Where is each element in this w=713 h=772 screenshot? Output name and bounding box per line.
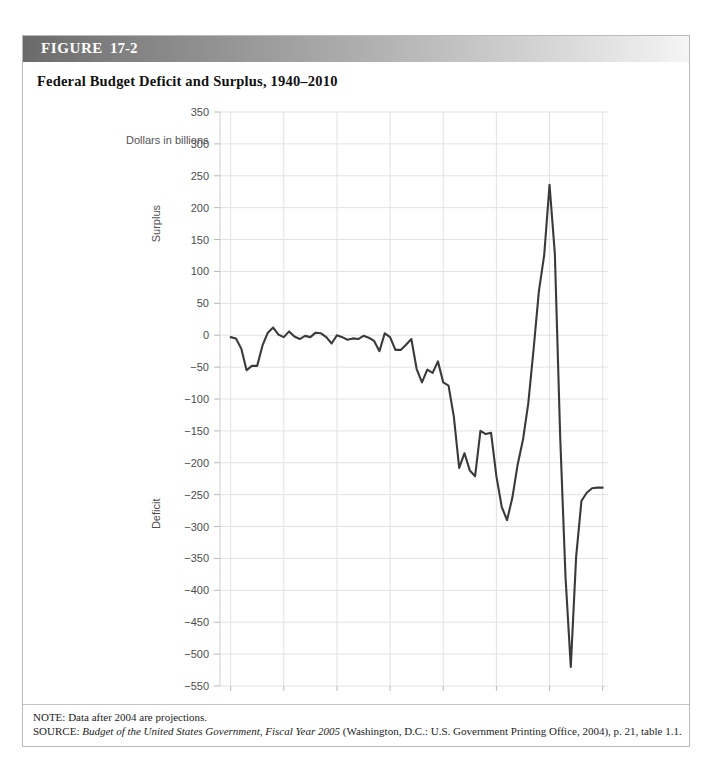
- y-tick-label: 250: [191, 170, 209, 182]
- y-axis-title-deficit: Deficit: [150, 499, 162, 530]
- data-series-line: [231, 185, 603, 667]
- y-tick-label: 100: [191, 265, 209, 277]
- y-axis-title-surplus: Surplus: [150, 204, 162, 242]
- y-tick-label: 50: [197, 297, 209, 309]
- chart-area: Dollars in billions 35030025020015010050…: [23, 94, 689, 694]
- y-tick-label: −450: [184, 616, 209, 628]
- y-tick-label: 350: [191, 106, 209, 118]
- y-axis-tick-labels: 350300250200150100500−50−100−150−200−250…: [184, 106, 209, 692]
- tickmarks-group: [214, 112, 603, 691]
- y-tick-label: −400: [184, 584, 209, 596]
- note-line: NOTE: Data after 2004 are projections.: [33, 710, 689, 724]
- y-tick-label: −150: [184, 425, 209, 437]
- y-tick-label: 200: [191, 202, 209, 214]
- source-rest: (Washington, D.C.: U.S. Government Print…: [340, 725, 682, 737]
- y-tick-label: −500: [184, 648, 209, 660]
- note-text: Data after 2004 are projections.: [65, 711, 207, 723]
- y-tick-label: −350: [184, 552, 209, 564]
- figure-notes: NOTE: Data after 2004 are projections. S…: [23, 704, 689, 738]
- y-tick-label: 300: [191, 138, 209, 150]
- figure-frame: FIGURE17-2 Federal Budget Deficit and Su…: [22, 35, 690, 747]
- source-line: SOURCE: Budget of the United States Gove…: [33, 724, 689, 738]
- figure-label: FIGURE17-2: [41, 40, 137, 57]
- note-prefix: NOTE:: [33, 711, 65, 723]
- figure-label-word: FIGURE: [41, 40, 103, 56]
- line-chart: 350300250200150100500−50−100−150−200−250…: [23, 94, 689, 694]
- y-tick-label: −100: [184, 393, 209, 405]
- y-tick-label: −250: [184, 489, 209, 501]
- figure-header-bar: FIGURE17-2: [23, 36, 689, 62]
- y-tick-label: −200: [184, 457, 209, 469]
- y-tick-label: −300: [184, 521, 209, 533]
- source-title-italic: Budget of the United States Government, …: [82, 725, 340, 737]
- y-tick-label: −50: [190, 361, 209, 373]
- page-title: Federal Budget Deficit and Surplus, 1940…: [37, 73, 338, 90]
- source-prefix: SOURCE:: [33, 725, 79, 737]
- figure-label-number: 17-2: [110, 40, 138, 56]
- y-tick-label: −550: [184, 680, 209, 692]
- y-tick-label: 150: [191, 234, 209, 246]
- y-tick-label: 0: [203, 329, 209, 341]
